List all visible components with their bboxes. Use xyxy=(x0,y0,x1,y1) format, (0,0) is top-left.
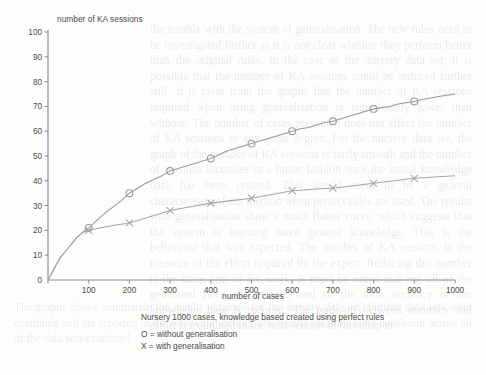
figure-caption: Nursery 1000 cases, knowledge based crea… xyxy=(141,311,384,353)
legend-entry-with-generalisation: X = with generalisation xyxy=(141,340,384,353)
y-axis-tick-label: 10 xyxy=(33,251,43,260)
y-axis-label: number of KA sessions xyxy=(57,14,143,24)
y-axis-tick-label: 100 xyxy=(28,28,42,37)
y-axis-tick-label: 50 xyxy=(33,152,43,161)
y-axis-tick-label: 0 xyxy=(37,276,42,285)
y-axis-tick-label: 80 xyxy=(33,78,43,87)
y-axis-tick-label: 70 xyxy=(33,102,43,111)
series-line xyxy=(48,176,455,280)
series-line xyxy=(48,94,455,280)
line-chart-figure: 0102030405060708090100100200300400500600… xyxy=(0,0,486,375)
x-axis-label: number of cases xyxy=(0,291,486,301)
y-axis-tick-label: 30 xyxy=(33,202,43,211)
scanned-figure-page: the trouble with the system of generalis… xyxy=(0,0,486,375)
series-x xyxy=(48,175,455,280)
caption-line-1: Nursery 1000 cases, knowledge based crea… xyxy=(141,311,384,324)
y-axis-tick-label: 40 xyxy=(33,177,43,186)
y-axis-tick-label: 60 xyxy=(33,127,43,136)
legend-entry-without-generalisation: O = without generalisation xyxy=(141,328,384,341)
y-axis-tick-label: 20 xyxy=(33,226,43,235)
series-o xyxy=(48,94,455,280)
y-axis-tick-label: 90 xyxy=(33,53,43,62)
